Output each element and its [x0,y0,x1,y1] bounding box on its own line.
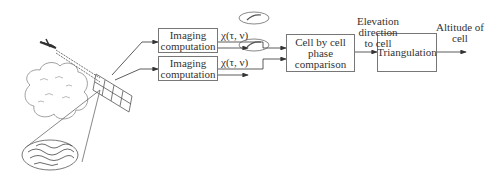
box-label: Imaging computation [159,58,217,80]
diagram-canvas: Imaging computation Imaging computation … [0,0,486,179]
elevation-label: Elevation direction to cell [354,16,402,49]
phase-comparison-box: Cell by cell phase comparison [286,34,355,72]
radar-beam [56,50,100,82]
imaging-computation-box-top: Imaging computation [158,28,218,53]
imaging-computation-box-bottom: Imaging computation [158,56,218,81]
ground-patch-icon [22,140,78,170]
chi-label-bottom: χ(τ, ν) [221,57,248,68]
box-label: Imaging computation [159,30,217,52]
chi-label-top: χ(τ, ν) [221,30,248,41]
altitude-label: Altitude of cell [434,22,486,44]
cloud-icon [25,63,88,119]
diagram-graphics [0,0,486,179]
box-label: Cell by cell phase comparison [291,37,350,70]
aircraft-icon [40,39,56,48]
antenna-array-icon [93,74,132,112]
